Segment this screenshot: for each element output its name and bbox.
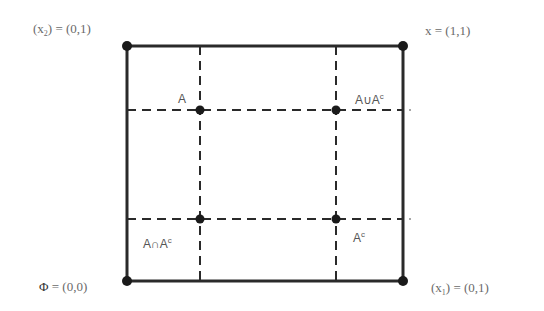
label-top-left: (x2) = (0,1)	[33, 22, 91, 38]
label-complement-text: A	[353, 231, 361, 245]
point-complement-dot	[332, 215, 341, 224]
superscript: c	[168, 236, 172, 245]
label-union: A∪Ac	[355, 93, 384, 106]
equals-sign: =	[55, 21, 62, 36]
var-x: x	[425, 23, 432, 38]
label-a: A	[178, 93, 186, 105]
corner-dot-top-right	[398, 41, 408, 51]
equals-sign: =	[453, 280, 460, 295]
subscript: 1	[442, 288, 446, 297]
point-a-dot	[196, 106, 205, 115]
label-bottom-left: Φ = (0,0)	[39, 280, 87, 293]
lattice-diagram	[0, 0, 544, 311]
value: (0,1)	[66, 21, 91, 36]
superscript: c	[361, 230, 365, 239]
subscript: 2	[44, 29, 48, 38]
corner-dot-bottom-right	[398, 276, 408, 286]
point-intersection-dot	[196, 215, 205, 224]
label-bottom-right: (x1) = (0,1)	[431, 281, 489, 297]
corner-dot-top-left	[122, 41, 132, 51]
equals-sign: =	[52, 279, 59, 294]
label-intersection-text: A∩A	[143, 237, 168, 251]
label-union-text: A∪A	[355, 93, 380, 107]
label-a-text: A	[178, 92, 186, 106]
label-top-right: x = (1,1)	[425, 24, 470, 37]
value: (1,1)	[445, 23, 470, 38]
corner-dot-bottom-left	[122, 276, 132, 286]
label-complement: Ac	[353, 231, 365, 244]
label-intersection: A∩Ac	[143, 237, 172, 250]
value: (0,1)	[464, 280, 489, 295]
var-phi: Φ	[39, 279, 49, 294]
value: (0,0)	[62, 279, 87, 294]
superscript: c	[380, 92, 384, 101]
point-union-dot	[332, 106, 341, 115]
equals-sign: =	[435, 23, 442, 38]
